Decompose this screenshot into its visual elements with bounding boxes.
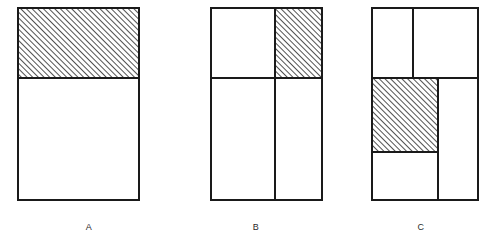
figure-b-label: B xyxy=(236,222,276,232)
figure-c-label: C xyxy=(401,222,441,232)
figure-b-cell-bottom-left[interactable] xyxy=(211,78,275,200)
figure-a-cell-top-hatched[interactable] xyxy=(18,8,139,78)
figure-c-cell-right-column[interactable] xyxy=(438,78,478,200)
figure-c-cell-top-right[interactable] xyxy=(413,8,478,78)
figure-a-label: A xyxy=(69,222,109,232)
figure-b-cell-bottom-right[interactable] xyxy=(275,78,322,200)
figure-c-cell-top-left[interactable] xyxy=(372,8,413,78)
figure-c-cell-middle-left-hatched[interactable] xyxy=(372,78,438,152)
figure-a[interactable] xyxy=(18,8,139,200)
figure-a-cell-bottom[interactable] xyxy=(18,78,139,200)
figure-b[interactable] xyxy=(211,8,322,200)
figures-svg xyxy=(0,0,494,247)
figure-b-cell-top-right-hatched[interactable] xyxy=(275,8,322,78)
figure-c-cell-lower-left[interactable] xyxy=(372,152,438,200)
diagram-container: A B C xyxy=(0,0,494,247)
figure-c[interactable] xyxy=(372,8,478,200)
figure-b-cell-top-left[interactable] xyxy=(211,8,275,78)
